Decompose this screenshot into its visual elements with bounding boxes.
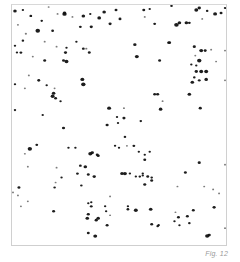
star-dot — [203, 186, 205, 188]
star-dot — [107, 106, 111, 109]
star-dot — [29, 15, 32, 17]
star-dot — [25, 33, 27, 35]
star-dot — [63, 12, 66, 15]
star-dot — [65, 60, 69, 63]
star-dot — [93, 234, 97, 237]
star-dot — [80, 78, 84, 81]
star-dot — [57, 13, 59, 15]
star-dot — [215, 61, 217, 63]
star-dot — [76, 172, 79, 174]
star-dot — [153, 23, 156, 25]
star-dot — [176, 186, 178, 188]
star-dot — [188, 93, 192, 96]
star-dot — [135, 55, 139, 58]
star-dot — [133, 43, 136, 46]
star-dot — [116, 116, 118, 118]
star-dot — [97, 154, 100, 157]
star-dot — [13, 9, 17, 12]
star-dot — [35, 29, 40, 33]
star-dot — [115, 9, 118, 12]
star-dot — [82, 47, 85, 49]
star-dot — [143, 183, 146, 186]
star-dot — [150, 176, 153, 178]
star-dot — [186, 215, 189, 218]
star-dot — [117, 122, 119, 124]
star-dot — [74, 147, 76, 149]
star-dot — [93, 175, 96, 178]
star-dot — [27, 201, 29, 203]
star-dot — [24, 153, 26, 155]
star-dot — [197, 59, 201, 63]
star-dot — [127, 205, 129, 207]
star-dot — [14, 109, 16, 111]
star-dot — [138, 151, 140, 153]
star-dot — [199, 107, 202, 110]
star-dot — [104, 205, 106, 207]
star-dot — [17, 24, 19, 26]
star-dot — [109, 214, 111, 216]
star-dot — [48, 6, 50, 8]
star-dot — [198, 79, 201, 81]
star-dot — [170, 5, 173, 7]
star-dot — [188, 222, 191, 224]
star-dot — [54, 87, 56, 89]
star-dot — [188, 22, 191, 24]
star-dot — [149, 8, 151, 10]
star-dot — [224, 227, 226, 229]
star-dot — [79, 26, 82, 28]
star-dot — [102, 10, 106, 13]
star-dot — [134, 209, 138, 212]
star-dot — [42, 114, 44, 116]
star-dot — [191, 81, 195, 84]
star-dot — [146, 175, 149, 178]
star-dot — [192, 209, 195, 212]
star-dot — [90, 25, 93, 28]
star-dot — [35, 144, 38, 146]
star-dot — [54, 97, 57, 100]
star-dot — [149, 151, 151, 153]
star-dot — [97, 16, 101, 19]
star-dot — [43, 59, 46, 62]
star-dot — [132, 145, 135, 147]
star-dot — [199, 70, 203, 73]
star-dot — [159, 108, 163, 111]
star-dot — [156, 93, 159, 96]
star-dot — [201, 18, 203, 20]
star-dot — [206, 10, 209, 12]
star-dot — [16, 52, 18, 54]
star-dot — [80, 184, 83, 186]
star-dot — [89, 13, 91, 15]
star-dot — [224, 164, 226, 166]
star-dot — [81, 82, 85, 86]
star-dot — [140, 120, 143, 122]
star-dot — [87, 202, 89, 204]
star-dot — [20, 205, 22, 207]
star-dot — [86, 217, 90, 220]
figure-caption: Fig. 12 — [205, 250, 228, 257]
star-dot — [142, 175, 144, 177]
star-dot — [119, 18, 122, 21]
star-dot — [12, 192, 14, 194]
star-dot — [193, 45, 196, 48]
star-dot — [108, 22, 111, 25]
star-dot — [105, 210, 107, 212]
star-dot — [178, 21, 182, 24]
star-dot — [204, 70, 208, 73]
star-dot — [56, 46, 58, 48]
star-dot — [79, 164, 82, 166]
star-dot — [22, 40, 25, 42]
star-dot — [212, 189, 214, 191]
star-dot — [52, 92, 56, 95]
star-dot — [95, 219, 98, 222]
star-dot — [204, 78, 208, 81]
star-dot — [142, 173, 144, 175]
star-dot — [87, 232, 90, 235]
star-dot — [24, 87, 26, 89]
star-dot — [28, 147, 32, 151]
star-dot — [56, 167, 58, 169]
star-dot — [150, 223, 153, 226]
star-dot — [190, 63, 192, 65]
star-dot — [168, 41, 171, 44]
star-dot — [185, 21, 189, 24]
star-dot — [90, 201, 92, 203]
